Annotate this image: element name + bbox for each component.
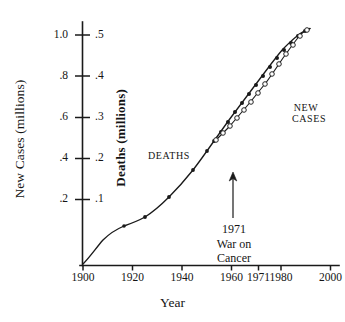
series-label-new-cases-line2: CASES bbox=[292, 113, 326, 124]
x-axis-title: Year bbox=[0, 296, 345, 310]
x-axis-tick-label: 1920 bbox=[111, 271, 155, 283]
y-axis-inner-tick-label: .3 bbox=[95, 110, 129, 122]
deaths-markers bbox=[122, 29, 307, 228]
series-label-new-cases: NEW CASES bbox=[286, 102, 326, 124]
annotation-line3: Cancer bbox=[197, 251, 271, 266]
y-axis-left-tick-label: 1.0 bbox=[34, 28, 68, 40]
y-axis-left-tick-label: .6 bbox=[34, 110, 68, 122]
y-axis-left-title: New Cases (millions) bbox=[13, 59, 27, 219]
y-axis-inner-title: Deaths (millions) bbox=[114, 63, 128, 213]
x-axis-tick-label: 1900 bbox=[61, 271, 105, 283]
y-axis-left-tick-label: .2 bbox=[34, 192, 68, 204]
x-axis-tick-label: 1980 bbox=[259, 271, 303, 283]
annotation-line2: War on bbox=[197, 237, 271, 252]
new-cases-markers bbox=[214, 28, 310, 143]
annotation-year: 1971 bbox=[197, 222, 271, 237]
y-axis-inner-tick-label: .5 bbox=[95, 28, 129, 40]
y-axis-inner-tick-label: .1 bbox=[95, 192, 129, 204]
y-axis-inner-tick-label: .4 bbox=[95, 69, 129, 81]
war-on-cancer-annotation: 1971 War on Cancer bbox=[197, 222, 271, 266]
cancer-statistics-figure: New Cases (millions) Deaths (millions) Y… bbox=[0, 0, 345, 322]
series-label-deaths: DEATHS bbox=[148, 150, 190, 161]
y-axis-inner-tick-label: .2 bbox=[95, 151, 129, 163]
x-axis-tick-label: 2000 bbox=[309, 271, 345, 283]
war-on-cancer-arrow-icon bbox=[229, 172, 237, 218]
series-label-new-cases-line1: NEW bbox=[286, 102, 326, 113]
y-axis-left-tick-label: .4 bbox=[34, 151, 68, 163]
y-axis-left-tick-label: .8 bbox=[34, 69, 68, 81]
x-axis-tick-label: 1940 bbox=[160, 271, 204, 283]
